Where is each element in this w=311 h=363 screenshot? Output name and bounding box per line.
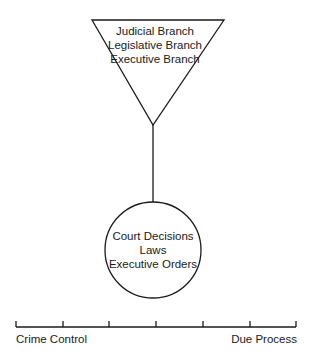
scale-axis: [16, 321, 296, 327]
output-court-decisions: Court Decisions: [98, 229, 208, 243]
outputs-label: Court Decisions Laws Executive Orders: [98, 229, 208, 271]
branches-label: Judicial Branch Legislative Branch Execu…: [103, 24, 207, 66]
scale-right-label: Due Process: [231, 333, 297, 345]
branch-judicial: Judicial Branch: [103, 24, 207, 38]
branch-legislative: Legislative Branch: [103, 38, 207, 52]
branch-executive: Executive Branch: [103, 52, 207, 66]
output-laws: Laws: [98, 243, 208, 257]
scale-left-label: Crime Control: [16, 333, 87, 345]
output-executive-orders: Executive Orders: [98, 257, 208, 271]
